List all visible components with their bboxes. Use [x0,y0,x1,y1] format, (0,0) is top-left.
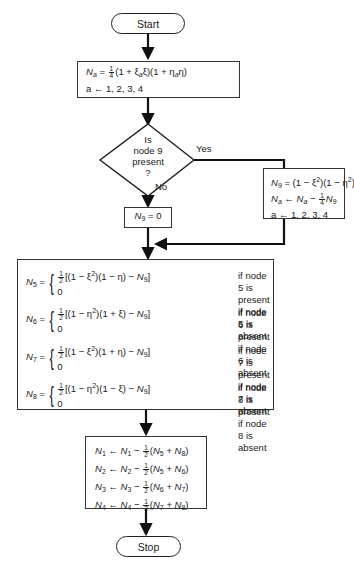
midside-node-7-equation: N7 = { 12[(1 − ξ2)(1 + η) − N9] 0 [26,343,150,373]
no-box: N9 = 0 [124,207,172,228]
corner-node-3-update: N3 ← N3 − 12(N6 + N7) [95,479,206,497]
init-box: Na = 14(1 + ξaξ)(1 + ηaη) a ← 1, 2, 3, 4 [77,61,240,98]
midside-nodes-box: N5 = { 12[(1 − ξ2)(1 − η) − N9] 0 if nod… [17,259,274,410]
corner-nodes-box: N1 ← N1 − 12(N5 + N8)N2 ← N2 − 12(N5 + N… [85,436,207,509]
corner-node-4-update: N4 ← N4 − 12(N7 + N8) [95,497,206,515]
corner-node-1-update: N1 ← N1 − 12(N5 + N8) [95,443,206,461]
brace-icon: { [49,347,53,369]
start-label: Start [137,18,159,30]
midside-node-5-equation: N5 = { 12[(1 − ξ2)(1 − η) − N9] 0 [26,268,150,298]
midside-node-6-equation: N6 = { 12[(1 − η2)(1 + ξ) − N9] 0 [26,305,150,335]
n9-zero: N9 = 0 [135,209,162,226]
brace-icon: { [49,309,53,331]
midside-node-8-equation: N8 = { 12[(1 − η2)(1 − ξ) − N9] 0 [26,380,150,410]
stop-terminal: Stop [116,536,181,557]
start-terminal: Start [111,13,185,34]
brace-icon: { [49,272,53,294]
no-label: No [155,181,167,192]
shape-function-equation: Na = 14(1 + ξaξ)(1 + ηaη) [86,65,239,82]
decision-text: Is node 9 present ? [118,134,178,178]
stop-label: Stop [138,541,160,553]
corner-node-2-update: N2 ← N2 − 12(N5 + N6) [95,461,206,479]
loop-index: a ← 1, 2, 3, 4 [271,208,344,221]
yes-label: Yes [196,143,212,154]
brace-icon: { [49,384,53,406]
na-update: Na ← Na − 14N9 [271,192,344,208]
midside-node-8-conditions: if node 8 is present if node 8 is absent [238,382,273,454]
yes-box: N9 = (1 − ξ2)(1 − η2) Na ← Na − 14N9 a ←… [263,168,345,219]
loop-index: a ← 1, 2, 3, 4 [86,82,239,96]
n9-equation: N9 = (1 − ξ2)(1 − η2) [271,173,344,192]
